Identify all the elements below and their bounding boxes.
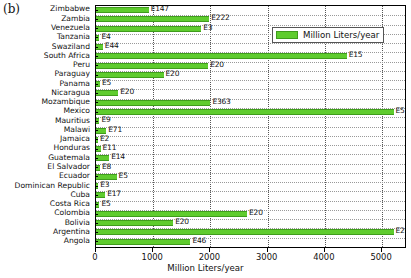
y-tick-mark — [95, 139, 98, 140]
bar-row: E5 — [96, 173, 405, 182]
y-tick-label-angola: Angola — [64, 237, 90, 245]
bar-value-label: E363 — [212, 97, 230, 106]
bar-row: E222 — [96, 15, 405, 24]
y-tick-label-dominican-republic: Dominican Republic — [15, 182, 90, 190]
bar-row: E8 — [96, 164, 405, 173]
bar-value-label: E71 — [108, 125, 122, 134]
y-tick-mark — [95, 112, 98, 113]
y-tick-mark — [95, 186, 98, 187]
bar-value-label: E15 — [349, 50, 363, 59]
bar-value-label: E14 — [111, 152, 125, 161]
x-tick-label-1000: 1000 — [142, 252, 163, 262]
bar-value-label: E2 — [100, 134, 109, 143]
bar-value-label: E222 — [211, 13, 229, 22]
bar-row: E20 — [96, 62, 405, 71]
y-tick-label-paraguay: Paraguay — [55, 70, 90, 78]
bar-value-label: E3 — [100, 180, 109, 189]
y-tick-label-mozambique: Mozambique — [42, 98, 90, 106]
x-axis-title: Million Liters/year — [0, 263, 411, 273]
bar-argentina — [96, 229, 394, 235]
bar-value-label: E20 — [210, 60, 224, 69]
bar-row: E71 — [96, 127, 405, 136]
bar-row: E20 — [96, 228, 405, 237]
y-tick-mark — [95, 84, 98, 85]
bar-value-label: E5 — [102, 78, 111, 87]
bar-colombia — [96, 211, 247, 217]
bar-row: E20 — [96, 219, 405, 228]
bar-value-label: E17 — [107, 189, 121, 198]
y-tick-mark — [95, 37, 98, 38]
bar-row: E147 — [96, 6, 405, 15]
x-tick-label-3000: 3000 — [256, 252, 277, 262]
bar-peru — [96, 63, 208, 69]
bar-row: E363 — [96, 99, 405, 108]
bar-value-label: E8 — [102, 162, 111, 171]
bar-row: E3 — [96, 182, 405, 191]
y-tick-label-swaziland: Swaziland — [52, 43, 90, 51]
bar-ecuador — [96, 174, 117, 180]
x-tick-label-2000: 2000 — [199, 252, 220, 262]
legend-swatch-million-liters — [276, 31, 298, 39]
y-tick-label-colombia: Colombia — [54, 209, 90, 217]
bar-zambia — [96, 16, 209, 22]
bar-row: E15 — [96, 52, 405, 61]
legend: Million Liters/year — [272, 27, 384, 43]
bar-row: E20 — [96, 71, 405, 80]
y-tick-label-zambia: Zambia — [61, 15, 90, 23]
y-tick-label-mauritius: Mauritius — [55, 117, 90, 125]
bar-value-label: E46 — [192, 236, 206, 245]
y-tick-mark — [95, 28, 98, 29]
bar-value-label: E44 — [105, 41, 119, 50]
bar-bolivia — [96, 220, 173, 226]
bar-value-label: E20 — [120, 87, 134, 96]
bar-row: E2 — [96, 136, 405, 145]
y-tick-mark — [95, 93, 98, 94]
bar-value-label: E20 — [175, 217, 189, 226]
bar-mozambique — [96, 100, 210, 106]
y-tick-mark — [95, 130, 98, 131]
y-tick-mark — [95, 195, 98, 196]
y-tick-label-guatemala: Guatemala — [48, 154, 90, 162]
y-tick-label-jamaica: Jamaica — [60, 135, 90, 143]
y-tick-mark — [95, 167, 98, 168]
bar-row: E11 — [96, 145, 405, 154]
y-tick-label-argentina: Argentina — [53, 228, 90, 236]
bar-row: E20 — [96, 210, 405, 219]
y-tick-mark — [95, 56, 98, 57]
y-tick-label-south-africa: South Africa — [44, 52, 90, 60]
y-tick-mark — [95, 121, 98, 122]
bar-row: E9 — [96, 117, 405, 126]
bar-south-africa — [96, 53, 347, 59]
y-tick-mark — [95, 10, 98, 11]
y-tick-mark — [95, 214, 98, 215]
y-tick-mark — [95, 102, 98, 103]
y-tick-mark — [95, 241, 98, 242]
bar-row: E46 — [96, 238, 405, 247]
bar-value-label: E20 — [396, 226, 406, 235]
bar-angola — [96, 239, 190, 245]
y-tick-label-malawi: Malawi — [64, 126, 90, 134]
y-tick-label-ecuador: Ecuador — [59, 172, 90, 180]
y-tick-label-costa-rica: Costa Rica — [50, 200, 90, 208]
bar-value-label: E11 — [103, 143, 117, 152]
y-tick-label-bolivia: Bolivia — [65, 219, 90, 227]
y-tick-label-cuba: Cuba — [70, 191, 90, 199]
y-tick-mark — [95, 47, 98, 48]
y-axis-category-labels: ZimbabweZambiaVenezuelaTanzaniaSwaziland… — [0, 5, 93, 248]
bar-row: E20 — [96, 89, 405, 98]
bar-value-label: E20 — [249, 208, 263, 217]
bar-venezuela — [96, 26, 201, 32]
bar-row: E5 — [96, 108, 405, 117]
bar-value-label: E9 — [101, 115, 110, 124]
y-tick-mark — [95, 176, 98, 177]
bar-value-label: E5 — [119, 171, 128, 180]
y-tick-label-el-salvador: El Salvador — [47, 163, 90, 171]
bar-row: E17 — [96, 191, 405, 200]
y-tick-mark — [95, 149, 98, 150]
y-tick-mark — [95, 19, 98, 20]
bar-value-label: E4 — [101, 32, 110, 41]
y-tick-label-tanzania: Tanzania — [57, 33, 90, 41]
y-tick-mark — [95, 223, 98, 224]
x-tick-label-5000: 5000 — [370, 252, 391, 262]
bar-row: E14 — [96, 154, 405, 163]
